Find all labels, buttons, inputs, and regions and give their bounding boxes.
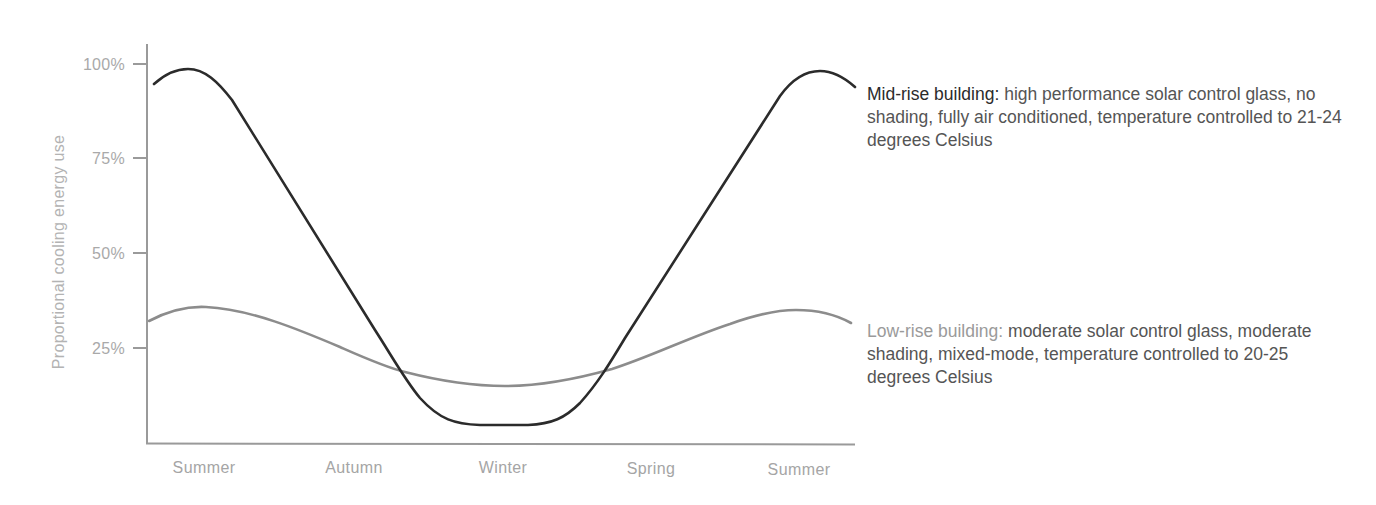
legend-low-rise-title: Low-rise building: bbox=[867, 321, 1003, 341]
mid-rise-series-line bbox=[154, 69, 855, 425]
x-axis-line bbox=[146, 444, 855, 445]
x-tick-summer-end: Summer bbox=[768, 461, 831, 478]
x-ticks: Summer Autumn Winter Spring Summer bbox=[173, 459, 831, 478]
y-tick-100: 100% bbox=[83, 56, 125, 73]
legend-mid-rise: Mid-rise building: high performance sola… bbox=[867, 83, 1347, 152]
low-rise-series-line bbox=[149, 307, 851, 386]
y-tick-75: 75% bbox=[92, 150, 125, 167]
y-ticks: 100% 75% 50% 25% bbox=[83, 56, 147, 357]
cooling-energy-chart: Proportional cooling energy use 100% 75%… bbox=[0, 0, 1376, 505]
legend-mid-rise-title: Mid-rise building: bbox=[867, 84, 999, 104]
x-tick-winter: Winter bbox=[479, 459, 528, 476]
y-axis-title: Proportional cooling energy use bbox=[50, 135, 67, 369]
x-tick-spring: Spring bbox=[627, 460, 676, 477]
x-tick-summer-start: Summer bbox=[173, 459, 236, 476]
y-tick-50: 50% bbox=[92, 245, 125, 262]
y-tick-25: 25% bbox=[92, 340, 125, 357]
legend-low-rise: Low-rise building: moderate solar contro… bbox=[867, 320, 1347, 389]
x-tick-autumn: Autumn bbox=[325, 459, 383, 476]
